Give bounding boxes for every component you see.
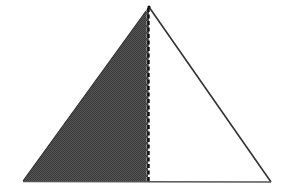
triangle-outline-right-edge	[149, 7, 271, 182]
triangle-base	[23, 182, 271, 183]
diagram-canvas	[0, 0, 287, 190]
apex-point	[147, 5, 150, 8]
triangle-diagram	[0, 0, 287, 190]
